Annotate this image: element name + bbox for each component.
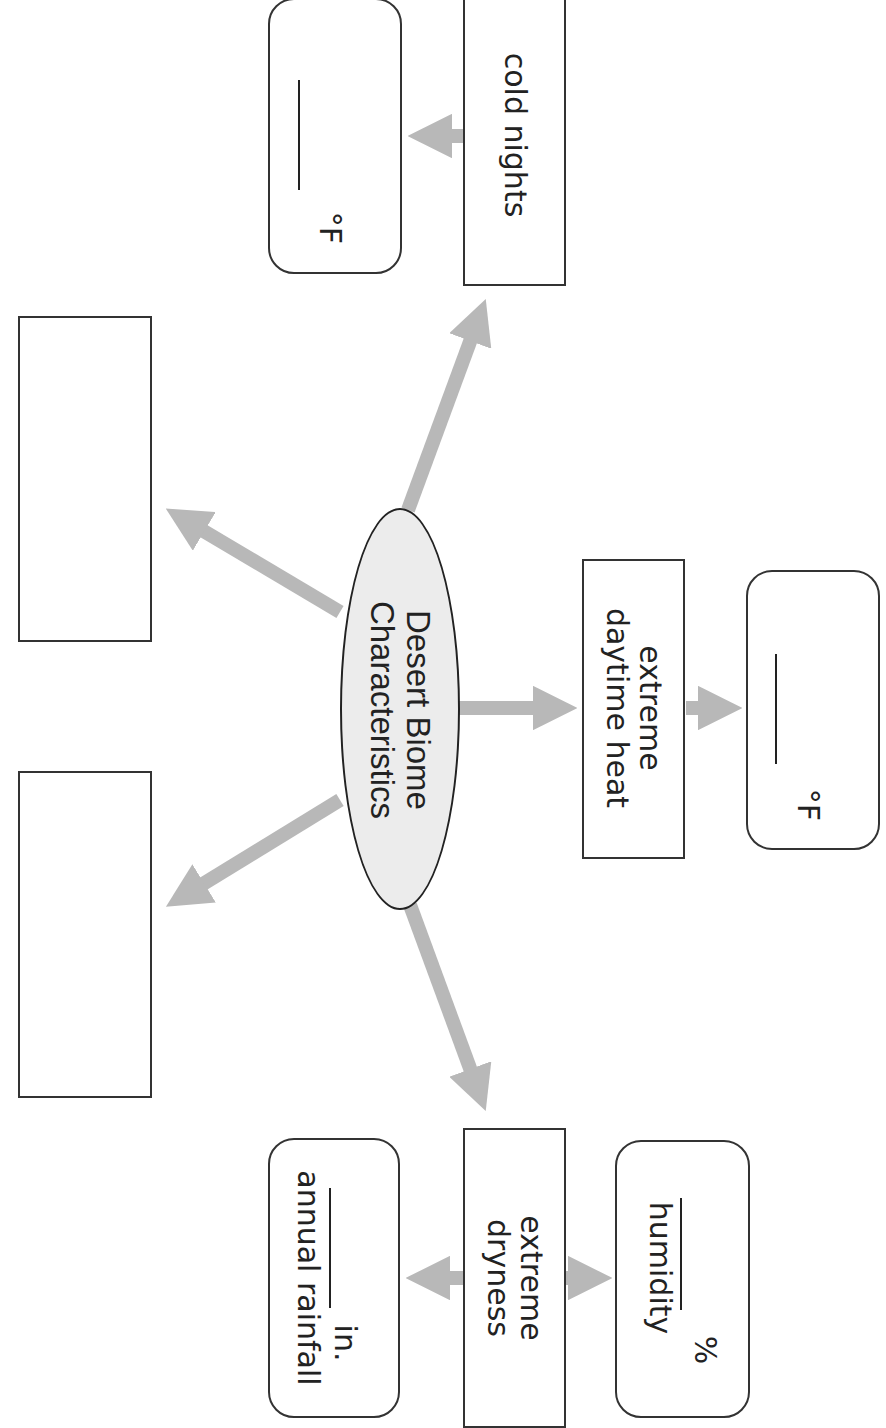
dryness-line-1: extreme (515, 1215, 548, 1340)
cold-nights-unit: °F (314, 212, 347, 244)
blank-box-bottom[interactable] (18, 771, 152, 1098)
rainfall-caption: annual rainfall (292, 1170, 325, 1385)
blank-box-top[interactable] (18, 316, 152, 642)
central-title: Desert Biome Characteristics (364, 601, 437, 819)
humidity-unit: % (689, 1336, 722, 1365)
daytime-heat-unit: °F (792, 789, 825, 821)
rainfall-blank-line[interactable] (329, 1188, 331, 1308)
rainfall-unit: in. (329, 1325, 362, 1362)
cold-nights-blank-line[interactable] (298, 80, 300, 190)
arrow-to-blank-top (185, 520, 340, 612)
daytime-heat-line-2: daytime heat (601, 608, 634, 808)
arrow-to-dryness (410, 905, 478, 1090)
daytime-heat-label: extreme daytime heat (601, 608, 667, 808)
cold-nights-label: cold nights (499, 53, 532, 218)
humidity-answer-box[interactable] (615, 1140, 750, 1418)
humidity-blank-line[interactable] (680, 1198, 682, 1310)
title-line-2: Characteristics (364, 601, 400, 819)
humidity-caption: humidity (644, 1202, 677, 1334)
arrow-to-cold-nights (408, 320, 478, 510)
arrow-to-blank-bottom (185, 800, 340, 895)
title-line-1: Desert Biome (400, 601, 436, 819)
dryness-label: extreme dryness (482, 1215, 548, 1340)
rainfall-answer-box[interactable] (268, 1138, 400, 1418)
dryness-line-2: dryness (482, 1215, 515, 1340)
daytime-heat-line-1: extreme (634, 608, 667, 808)
daytime-heat-blank-line[interactable] (775, 654, 777, 764)
